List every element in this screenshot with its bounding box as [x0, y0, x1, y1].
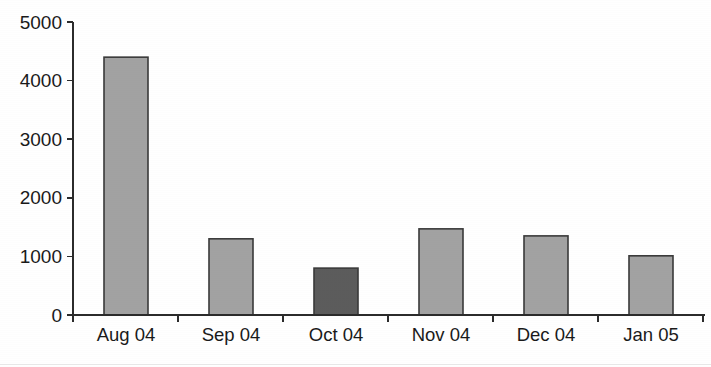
y-axis-tick-label: 2000	[20, 187, 62, 208]
bar	[104, 57, 148, 315]
x-axis-tick-marks	[73, 315, 703, 322]
x-axis-tick-label: Dec 04	[517, 324, 576, 345]
y-axis-tick-label: 0	[51, 305, 62, 326]
bar	[629, 256, 673, 315]
x-axis-tick-label: Jan 05	[623, 324, 679, 345]
y-axis-tick-label: 5000	[20, 12, 62, 33]
bar-chart: 010002000300040005000 Aug 04Sep 04Oct 04…	[0, 0, 711, 367]
x-axis-tick-labels: Aug 04Sep 04Oct 04Nov 04Dec 04Jan 05	[97, 324, 679, 345]
y-axis-tick-label: 4000	[20, 70, 62, 91]
chart-canvas: 010002000300040005000 Aug 04Sep 04Oct 04…	[0, 0, 711, 367]
y-axis-tick-label: 1000	[20, 246, 62, 267]
y-axis-tick-marks	[67, 22, 73, 315]
x-axis-tick-label: Nov 04	[412, 324, 471, 345]
x-axis-tick-label: Aug 04	[97, 324, 156, 345]
bar	[419, 229, 463, 315]
scan-artifact-line	[0, 364, 711, 365]
plot-area: 010002000300040005000 Aug 04Sep 04Oct 04…	[0, 0, 711, 367]
bar	[314, 268, 358, 315]
bars-group	[104, 57, 673, 315]
x-axis-tick-label: Oct 04	[309, 324, 364, 345]
y-axis-tick-label: 3000	[20, 129, 62, 150]
x-axis-tick-label: Sep 04	[202, 324, 261, 345]
bar	[209, 239, 253, 315]
bar	[524, 236, 568, 315]
y-axis-tick-labels: 010002000300040005000	[20, 12, 62, 326]
